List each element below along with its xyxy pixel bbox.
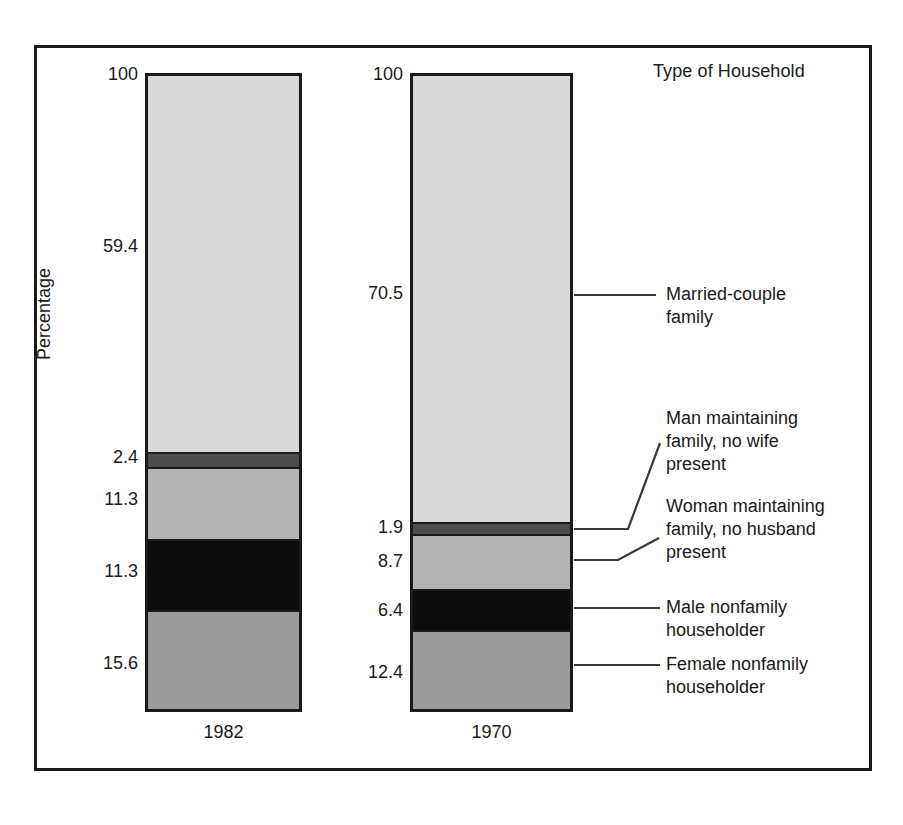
bar-1982-segment-man-maintaining-family[interactable] — [148, 452, 299, 467]
legend-line-1: Woman maintaining — [666, 495, 881, 518]
stacked-bar-1970[interactable] — [410, 73, 573, 712]
bar-1970-top-label: 100 — [343, 64, 403, 85]
bar-1982-segment-male-nonfamily-householder[interactable] — [148, 539, 299, 611]
bar-1982-segments — [148, 76, 299, 709]
legend-entry-female-nonfamily-householder: Female nonfamily householder — [666, 653, 881, 699]
chart-figure: Type of Household Percentage 100 59.4 2.… — [0, 0, 903, 825]
legend-entry-man-maintaining-family: Man maintaining family, no wife present — [666, 407, 881, 476]
legend-entry-woman-maintaining-family: Woman maintaining family, no husband pre… — [666, 495, 881, 564]
legend-line-1: Male nonfamily — [666, 596, 881, 619]
bar-1982-value-label-woman-maintaining-family: 11.3 — [78, 489, 138, 510]
bar-1970-value-label-male-nonfamily-householder: 6.4 — [343, 600, 403, 621]
bar-1970-segment-female-nonfamily-householder[interactable] — [413, 630, 570, 709]
bar-1970-value-label-female-nonfamily-householder: 12.4 — [343, 662, 403, 683]
legend-line-2: householder — [666, 676, 881, 699]
bar-1982-segment-female-nonfamily-householder[interactable] — [148, 610, 299, 709]
bar-1970-value-label-woman-maintaining-family: 8.7 — [343, 551, 403, 572]
stacked-bar-1982[interactable] — [145, 73, 302, 712]
legend-line-2: family, no wife — [666, 430, 881, 453]
legend-line-1: Man maintaining — [666, 407, 881, 430]
legend-line-3: present — [666, 453, 881, 476]
bar-1982-top-label: 100 — [78, 64, 138, 85]
legend-line-2: householder — [666, 619, 881, 642]
bar-1970-value-label-married-couple-family: 70.5 — [343, 283, 403, 304]
bar-1982-value-label-man-maintaining-family: 2.4 — [78, 447, 138, 468]
legend-entry-married-couple-family: Married-couple family — [666, 283, 881, 329]
bar-1982-value-label-female-nonfamily-householder: 15.6 — [78, 653, 138, 674]
bar-1970-segment-man-maintaining-family[interactable] — [413, 522, 570, 534]
bar-1982-value-label-married-couple-family: 59.4 — [78, 236, 138, 257]
legend-line-3: present — [666, 541, 881, 564]
legend-line-2: family — [666, 306, 881, 329]
bar-1970-segment-woman-maintaining-family[interactable] — [413, 534, 570, 589]
legend-line-1: Female nonfamily — [666, 653, 881, 676]
legend-line-1: Married-couple — [666, 283, 881, 306]
bar-1970-segment-male-nonfamily-householder[interactable] — [413, 589, 570, 630]
bar-1970-segments — [413, 76, 570, 709]
legend-line-2: family, no husband — [666, 518, 881, 541]
bar-1982-value-label-male-nonfamily-householder: 11.3 — [78, 561, 138, 582]
bar-1970-value-label-man-maintaining-family: 1.9 — [343, 517, 403, 538]
category-label-1970: 1970 — [410, 722, 573, 743]
y-axis-label: Percentage — [34, 200, 55, 360]
bar-1982-segment-woman-maintaining-family[interactable] — [148, 467, 299, 539]
chart-title: Type of Household — [653, 61, 805, 82]
bar-1982-segment-married-couple-family[interactable] — [148, 76, 299, 452]
category-label-1982: 1982 — [145, 722, 302, 743]
bar-1970-segment-married-couple-family[interactable] — [413, 76, 570, 522]
legend-entry-male-nonfamily-householder: Male nonfamily householder — [666, 596, 881, 642]
